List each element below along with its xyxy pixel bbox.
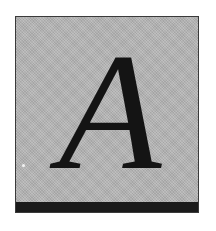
halftone-speck xyxy=(22,164,25,167)
bottom-bar xyxy=(16,202,198,212)
initial-letter: A xyxy=(16,17,198,203)
decorative-initial-box: A xyxy=(15,16,199,213)
